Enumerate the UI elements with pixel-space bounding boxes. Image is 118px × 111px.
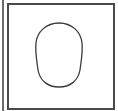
face-outline-icon [0, 0, 118, 111]
